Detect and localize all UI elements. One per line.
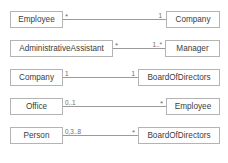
association-row: Person 0,3..8 * BoardOfDirectors <box>0 127 228 145</box>
multiplicity-target: 1 <box>115 69 135 78</box>
class-box-administrativeassistant[interactable]: AdministrativeAssistant <box>10 40 113 57</box>
multiplicity-source: 1 <box>65 69 69 78</box>
class-box-company[interactable]: Company <box>10 69 63 86</box>
multiplicity-source: * <box>65 11 68 22</box>
association-row: AdministrativeAssistant * 1..* Manager <box>0 40 228 58</box>
class-box-boardofdirectors[interactable]: BoardOfDirectors <box>138 69 220 86</box>
association-row: Employee * 1 Company <box>0 11 228 29</box>
uml-association-diagram: Employee * 1 Company AdministrativeAssis… <box>0 0 228 163</box>
multiplicity-source: 0,3..8 <box>65 127 81 136</box>
association-row: Office 0..1 * Employee <box>0 98 228 116</box>
class-box-company[interactable]: Company <box>166 11 220 28</box>
multiplicity-target: * <box>146 98 163 109</box>
multiplicity-target: * <box>118 127 135 138</box>
class-box-manager[interactable]: Manager <box>165 40 220 57</box>
class-box-boardofdirectors[interactable]: BoardOfDirectors <box>138 127 220 144</box>
class-box-employee[interactable]: Employee <box>10 11 63 28</box>
multiplicity-target: 1 <box>142 11 162 20</box>
class-box-employee[interactable]: Employee <box>166 98 220 115</box>
association-row: Company 1 1 BoardOfDirectors <box>0 69 228 87</box>
class-box-office[interactable]: Office <box>10 98 63 115</box>
multiplicity-target: 1..* <box>139 40 162 49</box>
class-box-person[interactable]: Person <box>10 127 63 144</box>
multiplicity-source: * <box>115 40 118 51</box>
multiplicity-source: 0..1 <box>65 98 76 107</box>
